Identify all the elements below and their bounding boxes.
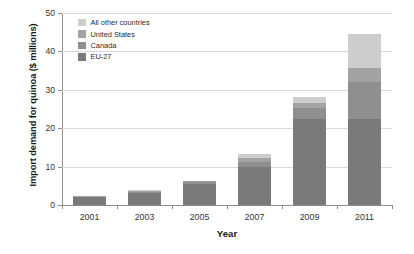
- y-tick-label: 20: [45, 123, 55, 133]
- gridline: [62, 90, 392, 91]
- x-tick-mark: [117, 205, 118, 209]
- bar-segment-eu-27: [128, 193, 161, 205]
- y-tick-label: 0: [50, 200, 55, 210]
- x-tick-label-2001: 2001: [80, 212, 100, 222]
- legend-label: United States: [91, 30, 135, 39]
- legend-item-all-other-countries: All other countries: [78, 17, 150, 28]
- x-tick-label-2003: 2003: [135, 212, 155, 222]
- y-tick-label: 30: [45, 85, 55, 95]
- y-tick-mark: [58, 13, 62, 14]
- bar-2005: [183, 181, 216, 205]
- chart-legend: All other countriesUnited StatesCanadaEU…: [78, 17, 150, 63]
- x-tick-label-2011: 2011: [355, 212, 374, 222]
- legend-swatch-icon: [78, 30, 86, 38]
- legend-label: All other countries: [91, 18, 150, 27]
- bar-segment-eu-27: [293, 119, 326, 205]
- y-tick-label: 10: [45, 162, 55, 172]
- bar-2003: [128, 190, 161, 205]
- legend-item-united-states: United States: [78, 28, 150, 39]
- legend-swatch-icon: [78, 42, 86, 50]
- y-tick-label: 40: [45, 46, 55, 56]
- bar-2009: [293, 97, 326, 205]
- x-tick-mark: [172, 205, 173, 209]
- bar-segment-canada: [348, 82, 381, 119]
- bar-segment-canada: [293, 108, 326, 119]
- bar-segment-eu-27: [348, 119, 381, 205]
- bar-2007: [238, 154, 271, 205]
- y-tick-mark: [58, 128, 62, 129]
- bar-segment-eu-27: [183, 184, 216, 206]
- gridline: [62, 167, 392, 168]
- y-tick-label: 50: [45, 8, 55, 18]
- x-tick-label-2005: 2005: [190, 212, 210, 222]
- x-tick-mark: [392, 205, 393, 209]
- y-tick-mark: [58, 90, 62, 91]
- legend-swatch-icon: [78, 53, 86, 61]
- x-axis-title: Year: [62, 228, 392, 239]
- bar-segment-eu-27: [238, 167, 271, 205]
- gridline: [62, 13, 392, 14]
- x-tick-mark: [337, 205, 338, 209]
- x-tick-label-2009: 2009: [300, 212, 320, 222]
- y-axis-line: [62, 13, 63, 205]
- legend-item-eu-27: EU-27: [78, 51, 150, 62]
- y-axis-title: Import demand for quinoa ($ millions): [28, 10, 38, 200]
- legend-item-canada: Canada: [78, 40, 150, 51]
- bar-segment-united-states: [348, 68, 381, 83]
- gridline: [62, 128, 392, 129]
- x-tick-mark: [62, 205, 63, 209]
- y-tick-mark: [58, 167, 62, 168]
- bar-2001: [73, 196, 106, 205]
- x-tick-mark: [227, 205, 228, 209]
- bar-segment-all-other-countries: [348, 34, 381, 67]
- legend-label: EU-27: [91, 52, 112, 61]
- bar-segment-eu-27: [73, 197, 106, 205]
- x-tick-mark: [282, 205, 283, 209]
- y-tick-mark: [58, 51, 62, 52]
- legend-swatch-icon: [78, 19, 86, 27]
- legend-label: Canada: [91, 41, 117, 50]
- stacked-bar-chart: Import demand for quinoa ($ millions) 01…: [0, 0, 414, 254]
- x-tick-label-2007: 2007: [245, 212, 265, 222]
- bar-2011: [348, 34, 381, 205]
